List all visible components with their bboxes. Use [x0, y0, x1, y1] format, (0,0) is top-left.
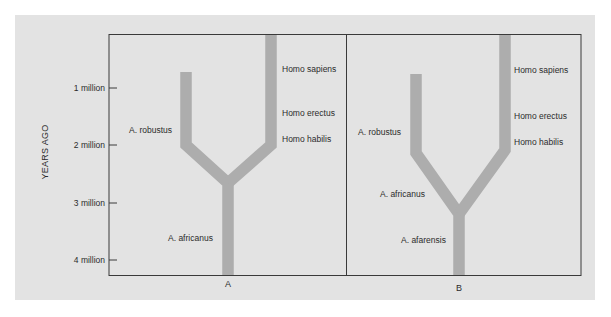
label-a-africanus: A. africanus [168, 233, 213, 243]
panel-label-a: A [225, 279, 231, 289]
panel-label-b: B [456, 283, 462, 293]
label-a-habilis: Homo habilis [282, 134, 331, 144]
phylogeny-diagram [0, 0, 611, 317]
y-axis-ticks [109, 88, 117, 260]
label-b-erectus: Homo erectus [514, 111, 567, 121]
y-axis-label: YEARS AGO [40, 124, 50, 179]
label-a-erectus: Homo erectus [282, 108, 335, 118]
label-a-sapiens: Homo sapiens [282, 64, 336, 74]
label-b-habilis: Homo habilis [514, 137, 563, 147]
label-b-robustus: A. robustus [358, 127, 401, 137]
branch-b-homo [459, 35, 505, 214]
branch-a-robustus [186, 72, 228, 275]
label-b-sapiens: Homo sapiens [514, 65, 568, 75]
label-a-robustus: A. robustus [129, 125, 172, 135]
label-b-afarensis: A. afarensis [401, 235, 446, 245]
label-b-africanus: A. africanus [380, 189, 425, 199]
y-tick-2-million: 2 million [35, 140, 105, 150]
y-tick-3-million: 3 million [35, 198, 105, 208]
y-tick-4-million: 4 million [35, 255, 105, 265]
y-tick-1-million: 1 million [35, 83, 105, 93]
branch-a-homo [228, 35, 271, 183]
